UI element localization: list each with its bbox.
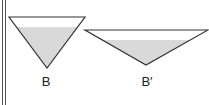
triangle-b bbox=[9, 17, 85, 68]
triangle-b-prime-label: B′ bbox=[141, 74, 152, 89]
triangles-diagram bbox=[0, 0, 209, 105]
triangle-b-prime bbox=[85, 30, 208, 65]
triangle-b-fill bbox=[16, 27, 77, 68]
triangle-b-prime-fill bbox=[102, 40, 190, 65]
triangle-b-label: B bbox=[42, 74, 51, 89]
